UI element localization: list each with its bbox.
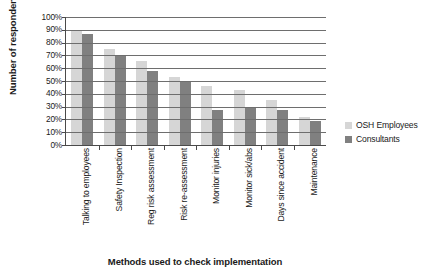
bar (180, 82, 191, 145)
bar-chart-figure: Number of respondents 100%90%80%70%60%50… (0, 0, 447, 276)
bar (104, 49, 115, 145)
y-tickmark (62, 81, 66, 82)
bar (234, 90, 245, 145)
x-category-label: Reg risk assessment (146, 148, 156, 225)
y-tick-label: 70% (26, 51, 62, 60)
bar (277, 110, 288, 145)
x-axis-title: Methods used to check implementation (55, 256, 335, 267)
y-axis-tick-labels: 100%90%80%70%60%50%40%30%20%10%0% (26, 12, 62, 150)
legend-swatch-icon (345, 136, 352, 143)
legend-label: Consultants (356, 134, 400, 144)
y-tickmark (62, 145, 66, 146)
x-category-label: Talking to employees (81, 148, 91, 225)
legend-swatch-icon (345, 122, 352, 129)
y-tickmark (62, 68, 66, 69)
y-tickmark (62, 119, 66, 120)
gridline (66, 55, 326, 56)
y-tickmark (62, 107, 66, 108)
legend-item[interactable]: Consultants (345, 132, 445, 146)
x-label-slot: Monitor sick/abs (228, 148, 261, 248)
y-tick-label: 90% (26, 25, 62, 34)
y-tickmark (62, 55, 66, 56)
y-tick-label: 30% (26, 102, 62, 111)
x-label-slot: Days since accident (260, 148, 293, 248)
y-tickmark (62, 94, 66, 95)
x-axis-category-labels: Talking to employeesSafety InspectionReg… (65, 148, 325, 248)
y-tickmark (62, 17, 66, 18)
x-label-slot: Monitor injuries (195, 148, 228, 248)
x-label-slot: Risk re-assessment (163, 148, 196, 248)
y-tick-label: 10% (26, 128, 62, 137)
chart-legend: OSH EmployeesConsultants (345, 118, 445, 146)
y-tick-label: 0% (26, 141, 62, 150)
gridline (66, 30, 326, 31)
gridline (66, 94, 326, 95)
x-label-slot: Reg risk assessment (130, 148, 163, 248)
bar (299, 117, 310, 145)
x-category-label: Safety Inspection (114, 148, 124, 211)
y-tickmark (62, 132, 66, 133)
x-label-slot: Safety Inspection (98, 148, 131, 248)
y-tick-label: 80% (26, 38, 62, 47)
gridline (66, 132, 326, 133)
bar (245, 107, 256, 145)
bar (82, 34, 93, 145)
x-category-label: Monitor sick/abs (244, 148, 254, 208)
gridline (66, 119, 326, 120)
y-tickmark (62, 43, 66, 44)
gridline (66, 43, 326, 44)
bar (212, 110, 223, 145)
y-tick-label: 20% (26, 115, 62, 124)
y-tick-label: 40% (26, 89, 62, 98)
x-category-label: Maintenance (309, 148, 319, 196)
y-axis-title: Number of respondents (7, 0, 18, 103)
x-label-slot: Talking to employees (65, 148, 98, 248)
gridline (66, 81, 326, 82)
bar (169, 77, 180, 145)
bar (201, 86, 212, 145)
x-label-slot: Maintenance (293, 148, 326, 248)
bar (71, 30, 82, 145)
x-category-label: Days since accident (276, 148, 286, 222)
y-tick-label: 50% (26, 77, 62, 86)
x-category-label: Risk re-assessment (179, 148, 189, 221)
y-tickmark (62, 30, 66, 31)
gridline (66, 107, 326, 108)
gridline (66, 17, 326, 18)
gridline (66, 68, 326, 69)
x-category-label: Monitor injuries (211, 148, 221, 204)
legend-label: OSH Employees (356, 120, 418, 130)
legend-item[interactable]: OSH Employees (345, 118, 445, 132)
plot-area (65, 17, 326, 146)
y-tick-label: 60% (26, 64, 62, 73)
y-tick-label: 100% (26, 13, 62, 22)
